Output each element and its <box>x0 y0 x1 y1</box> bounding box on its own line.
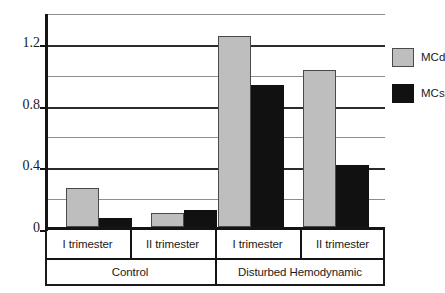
x-sep-2 <box>215 230 217 258</box>
legend-label-mcd: MCd <box>421 51 445 63</box>
y-axis-label-0-4: 0.4 <box>4 159 40 173</box>
bar-mcd-disturbed-i <box>218 36 251 227</box>
bar-mcd-disturbed-ii <box>303 70 336 227</box>
x-group-label-control: Control <box>45 258 215 286</box>
legend-item-mcd: MCd <box>392 47 438 67</box>
y-axis-label-0: 0 <box>4 221 40 235</box>
y-axis-labels: 1.2 0.8 0.4 0 <box>0 0 40 293</box>
y-axis-label-0-8: 0.8 <box>4 98 40 112</box>
x-axis-label-band: I trimester II trimester I trimester II … <box>45 230 385 286</box>
bar-mcs-control-i <box>99 218 132 227</box>
black-swatch-icon <box>392 84 414 103</box>
bar-mcd-control-i <box>66 188 99 227</box>
legend-item-mcs: MCs <box>392 83 438 103</box>
x-group-sep <box>215 258 217 286</box>
x-label-control-ii: II trimester <box>130 230 215 258</box>
bars-layer <box>45 14 385 227</box>
bar-mcs-disturbed-ii <box>336 165 369 227</box>
x-sep-1 <box>130 230 132 258</box>
x-label-disturbed-ii: II trimester <box>300 230 385 258</box>
x-group-label-disturbed: Disturbed Hemodynamic <box>215 258 385 286</box>
y-tick-0-4 <box>40 168 46 170</box>
legend-label-mcs: MCs <box>421 87 445 99</box>
y-tick-1-2 <box>40 45 46 47</box>
x-sep-3 <box>300 230 302 258</box>
x-label-disturbed-i: I trimester <box>215 230 300 258</box>
bar-mcd-control-ii <box>151 213 184 227</box>
x-label-control-i: I trimester <box>45 230 130 258</box>
y-axis-label-1-2: 1.2 <box>4 36 40 50</box>
bar-mcs-disturbed-i <box>251 85 284 227</box>
bar-mcs-control-ii <box>184 210 217 227</box>
gray-swatch-icon <box>392 48 414 67</box>
chart-legend: MCd MCs <box>392 47 438 119</box>
y-tick-0-8 <box>40 107 46 109</box>
plot-area <box>45 14 385 230</box>
